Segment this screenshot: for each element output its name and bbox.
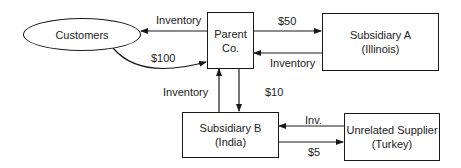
subsidiary-a-line1: Subsidiary A xyxy=(350,28,411,42)
edge-label-customers-to-parent: $100 xyxy=(151,52,175,64)
edge-label-parent-to-sub-b: $10 xyxy=(265,86,283,98)
parent-co-node: Parent Co. xyxy=(207,12,254,69)
unrelated-supplier-line1: Unrelated Supplier xyxy=(346,123,437,137)
customers-node: Customers xyxy=(23,18,141,51)
unrelated-supplier-line2: (Turkey) xyxy=(372,137,413,151)
edge-label-sub-b-to-supplier: $5 xyxy=(308,146,320,158)
subsidiary-a-node: Subsidiary A (Illinois) xyxy=(322,13,439,71)
edge-label-parent-to-sub-a: $50 xyxy=(278,15,296,27)
subsidiary-b-line2: (India) xyxy=(215,135,246,149)
parent-co-line2: Co. xyxy=(222,41,239,55)
edge-label-supplier-to-sub-b: Inv. xyxy=(305,114,322,126)
parent-co-line1: Parent xyxy=(214,27,246,41)
edge-label-parent-to-customers: Inventory xyxy=(156,14,201,26)
subsidiary-a-line2: (Illinois) xyxy=(362,42,400,56)
subsidiary-b-line1: Subsidiary B xyxy=(200,121,262,135)
subsidiary-b-node: Subsidiary B (India) xyxy=(182,112,279,158)
edge-label-sub-a-to-parent: Inventory xyxy=(270,57,315,69)
unrelated-supplier-node: Unrelated Supplier (Turkey) xyxy=(344,113,440,161)
edge-label-sub-b-to-parent: Inventory xyxy=(163,86,208,98)
customers-label: Customers xyxy=(55,29,108,41)
